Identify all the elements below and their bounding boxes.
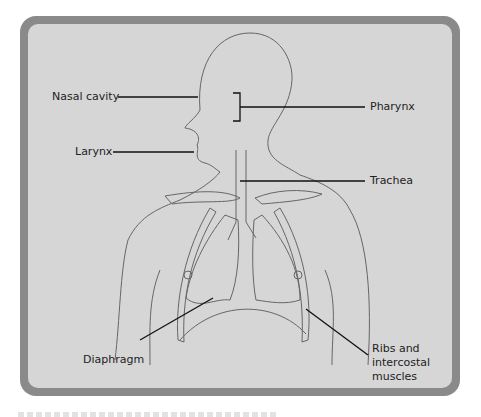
- right-clavicle: [255, 191, 322, 204]
- label-diaphragm: Diaphragm: [83, 353, 144, 367]
- label-larynx: Larynx: [75, 145, 112, 159]
- label-pharynx: Pharynx: [370, 100, 415, 114]
- right-shoulder: [350, 210, 369, 365]
- label-ribs-intercostal: Ribs and intercostal muscles: [372, 342, 430, 384]
- label-trachea: Trachea: [370, 174, 413, 188]
- left-clavicle: [165, 192, 240, 204]
- label-nasal-cavity: Nasal cavity: [52, 90, 119, 104]
- head-outline: [200, 33, 350, 210]
- diaphragm-line: [180, 309, 306, 340]
- left-ribs: [177, 208, 216, 342]
- caption-cropped: [18, 412, 278, 417]
